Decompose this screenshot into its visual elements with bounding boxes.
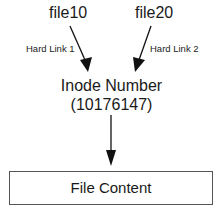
inode-to-content-arrowhead	[106, 150, 116, 166]
node-file-content-label: File Content	[10, 180, 212, 195]
hard-link-2-arrowhead	[133, 57, 145, 72]
edge-inode-to-content	[106, 115, 116, 166]
node-file-content-box: File Content	[9, 171, 213, 205]
edge-hard-link-2	[133, 26, 151, 72]
node-file10: file10	[49, 5, 87, 21]
node-inode-title: Inode Number	[0, 78, 223, 94]
edge-label-hard-link-2: Hard Link 2	[150, 44, 199, 54]
node-inode-number: (10176147)	[0, 97, 223, 113]
hard-link-1-arrowhead	[80, 57, 92, 72]
node-file20: file20	[135, 5, 173, 21]
edge-label-hard-link-1: Hard Link 1	[26, 44, 75, 54]
